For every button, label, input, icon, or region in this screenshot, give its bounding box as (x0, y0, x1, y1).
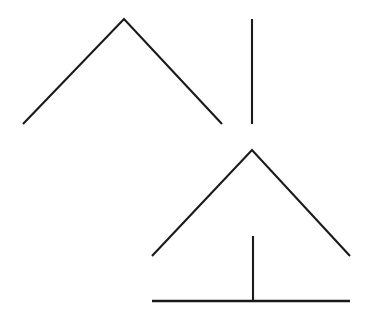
lower-figure-group (152, 150, 350, 301)
upper-figure-group (23, 19, 252, 124)
lower-chevron-line (152, 150, 350, 256)
upper-chevron-line (23, 19, 222, 124)
stimulus-canvas (0, 0, 365, 324)
line-figure-drawing (0, 0, 365, 324)
